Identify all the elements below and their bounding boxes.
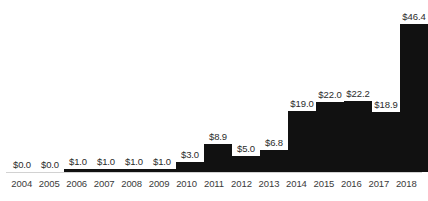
x-axis-labels: 2004 2005 2006 2007 2008 2009 2010 2011 … bbox=[8, 177, 420, 197]
bar[interactable] bbox=[176, 162, 204, 172]
bar-chart: $0.0 $0.0 $1.0 $1.0 $1.0 $1.0 $3.0 bbox=[0, 0, 428, 201]
bar-slot[interactable]: $1.0 bbox=[148, 4, 176, 172]
bar-value-label: $46.4 bbox=[402, 11, 425, 22]
bar-value-label: $1.0 bbox=[69, 156, 87, 167]
bar-value-label: $1.0 bbox=[97, 156, 115, 167]
plot-area: $0.0 $0.0 $1.0 $1.0 $1.0 $1.0 $3.0 bbox=[8, 4, 420, 172]
bar-value-label: $1.0 bbox=[125, 156, 143, 167]
bar-value-label: $3.0 bbox=[181, 149, 199, 160]
bar-slot[interactable]: $1.0 bbox=[64, 4, 92, 172]
bar[interactable] bbox=[232, 156, 260, 172]
bar-slot[interactable]: $18.9 bbox=[372, 4, 400, 172]
bar-slot[interactable]: $1.0 bbox=[120, 4, 148, 172]
bar-slot[interactable]: $22.0 bbox=[316, 4, 344, 172]
x-axis-tick-label: 2014 bbox=[283, 177, 310, 197]
bar-slot[interactable]: $0.0 bbox=[36, 4, 64, 172]
bar-value-label: $19.0 bbox=[290, 98, 313, 109]
x-axis-tick-label: 2010 bbox=[173, 177, 200, 197]
x-axis-tick-label: 2018 bbox=[393, 177, 420, 197]
bar[interactable] bbox=[344, 101, 372, 172]
bar-slot[interactable]: $22.2 bbox=[344, 4, 372, 172]
bar[interactable] bbox=[400, 24, 428, 172]
bar-value-label: $22.2 bbox=[346, 88, 369, 99]
x-axis-tick-label: 2007 bbox=[90, 177, 117, 197]
bar-slot[interactable]: $46.4 bbox=[400, 4, 428, 172]
x-axis-tick-label: 2004 bbox=[8, 177, 35, 197]
x-axis-tick-label: 2006 bbox=[63, 177, 90, 197]
bar[interactable] bbox=[316, 102, 344, 172]
bar-value-label: $5.0 bbox=[237, 143, 255, 154]
bar-value-label: $0.0 bbox=[13, 159, 31, 170]
x-axis-line bbox=[6, 172, 422, 173]
bar[interactable] bbox=[372, 112, 400, 172]
bar-value-label: $18.9 bbox=[374, 99, 397, 110]
bar[interactable] bbox=[260, 150, 288, 172]
x-axis-tick-label: 2013 bbox=[255, 177, 282, 197]
x-axis-tick-label: 2011 bbox=[200, 177, 227, 197]
bar-value-label: $8.9 bbox=[209, 131, 227, 142]
x-axis-tick-label: 2016 bbox=[338, 177, 365, 197]
x-axis-tick-label: 2012 bbox=[228, 177, 255, 197]
x-axis-tick-label: 2009 bbox=[145, 177, 172, 197]
x-axis-tick-label: 2017 bbox=[365, 177, 392, 197]
bar-slot[interactable]: $8.9 bbox=[204, 4, 232, 172]
bar-value-label: $1.0 bbox=[153, 156, 171, 167]
x-axis-tick-label: 2015 bbox=[310, 177, 337, 197]
bar-value-label: $22.0 bbox=[318, 89, 341, 100]
bar-slot[interactable]: $6.8 bbox=[260, 4, 288, 172]
bar-slot[interactable]: $19.0 bbox=[288, 4, 316, 172]
bar-slot[interactable]: $1.0 bbox=[92, 4, 120, 172]
x-axis-tick-label: 2008 bbox=[118, 177, 145, 197]
bar[interactable] bbox=[288, 111, 316, 172]
x-axis-tick-label: 2005 bbox=[35, 177, 62, 197]
bar-slot[interactable]: $5.0 bbox=[232, 4, 260, 172]
bar-value-label: $6.8 bbox=[265, 137, 283, 148]
bar[interactable] bbox=[204, 144, 232, 172]
bar-slot[interactable]: $3.0 bbox=[176, 4, 204, 172]
bar-value-label: $0.0 bbox=[41, 159, 59, 170]
bar-slot[interactable]: $0.0 bbox=[8, 4, 36, 172]
